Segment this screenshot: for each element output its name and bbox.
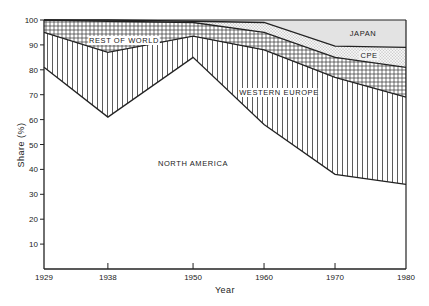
x-axis-title: Year <box>215 285 235 295</box>
y-tick-label: 80 <box>29 66 38 75</box>
chart-canvas: 1020304050607080901001929193819501960197… <box>0 0 429 306</box>
y-tick-label: 60 <box>29 116 38 125</box>
label-rest-of-world: REST OF WORLD <box>89 36 159 45</box>
x-tick-label: 1960 <box>255 273 273 282</box>
area-layers <box>44 20 406 269</box>
x-tick-label: 1950 <box>184 273 202 282</box>
label-western-europe: WESTERN EUROPE <box>239 88 319 97</box>
stacked-area-chart: 1020304050607080901001929193819501960197… <box>0 0 429 306</box>
label-cpe: CPE <box>360 51 377 60</box>
y-tick-label: 100 <box>25 16 39 25</box>
y-tick-label: 40 <box>29 165 38 174</box>
y-tick-label: 70 <box>29 91 38 100</box>
label-japan: JAPAN <box>350 29 377 38</box>
y-tick-label: 50 <box>29 141 38 150</box>
label-north-america: NORTH AMERICA <box>158 159 228 168</box>
y-tick-label: 90 <box>29 41 38 50</box>
x-tick-label: 1970 <box>326 273 344 282</box>
y-tick-label: 10 <box>29 240 38 249</box>
x-tick-label: 1929 <box>35 273 53 282</box>
y-tick-label: 30 <box>29 190 38 199</box>
x-tick-label: 1938 <box>99 273 117 282</box>
y-axis-title: Share (%) <box>16 122 26 167</box>
x-tick-label: 1980 <box>397 273 415 282</box>
y-tick-label: 20 <box>29 215 38 224</box>
